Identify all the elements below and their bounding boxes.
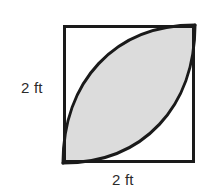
geometry-figure: 2 ft 2 ft xyxy=(0,0,203,196)
figure-canvas xyxy=(0,0,203,196)
dimension-label-bottom: 2 ft xyxy=(112,172,134,187)
dimension-label-left: 2 ft xyxy=(21,80,43,95)
